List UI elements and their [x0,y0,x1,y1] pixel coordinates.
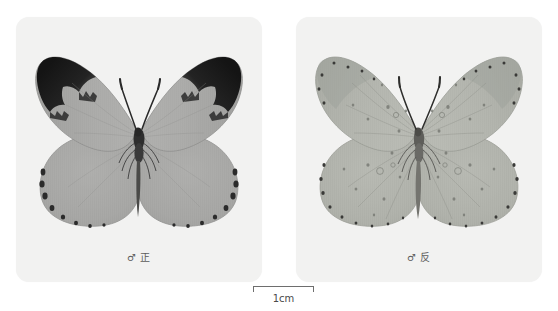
scale-bar: 1cm [253,286,314,308]
specimen-panel-dorsal: ♂ 正 [16,17,262,282]
specimen-panel-ventral-inner: ♂ 反 [296,17,542,282]
specimen-panel-ventral: ♂ 反 [296,17,542,282]
scale-bar-rule [253,286,314,292]
specimen-panel-dorsal-inner: ♂ 正 [16,17,262,282]
butterfly-ventral-image [296,19,542,244]
specimen-plate: ♂ 正 [0,0,558,311]
scale-bar-label: 1cm [253,293,314,304]
caption-ventral: ♂ 反 [296,249,542,264]
caption-dorsal: ♂ 正 [16,249,262,264]
butterfly-dorsal-image [16,19,262,244]
